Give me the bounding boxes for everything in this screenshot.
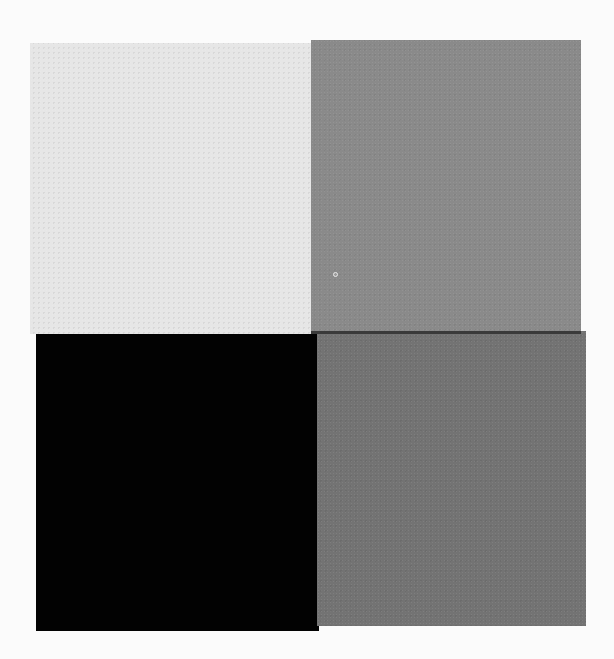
swatch-top-left-light-gray	[30, 43, 312, 334]
speck-mark	[333, 272, 338, 277]
swatch-top-right-medium-gray	[311, 40, 581, 333]
swatch-bottom-right-dark-gray	[317, 331, 586, 626]
swatch-bottom-left-black	[36, 334, 319, 631]
swatch-seam	[311, 331, 581, 334]
